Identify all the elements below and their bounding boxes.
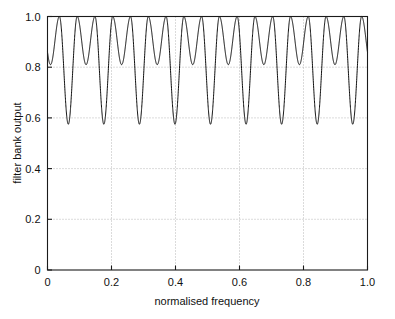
x-axis-title: normalised frequency: [154, 295, 260, 307]
x-tick-label: 0.6: [232, 276, 247, 288]
x-tick-label: 0.4: [168, 276, 183, 288]
y-tick-label: 0: [34, 264, 40, 276]
chart-figure: 00.20.40.60.81.0 00.20.40.60.81.0 normal…: [0, 0, 395, 319]
y-tick-label: 0.6: [25, 112, 40, 124]
x-tick-label: 1.0: [360, 276, 375, 288]
y-axis-title: filter bank output: [11, 102, 23, 183]
y-tick-label: 0.2: [25, 213, 40, 225]
y-tick-label: 1.0: [25, 11, 40, 23]
y-tick-label: 0.4: [25, 163, 40, 175]
x-tick-label: 0.8: [296, 276, 311, 288]
filter-bank-output-chart: 00.20.40.60.81.0 00.20.40.60.81.0 normal…: [0, 0, 395, 319]
x-tick-label: 0.2: [104, 276, 119, 288]
chart-background: [0, 0, 395, 319]
x-tick-label: 0: [44, 276, 50, 288]
y-tick-label: 0.8: [25, 61, 40, 73]
